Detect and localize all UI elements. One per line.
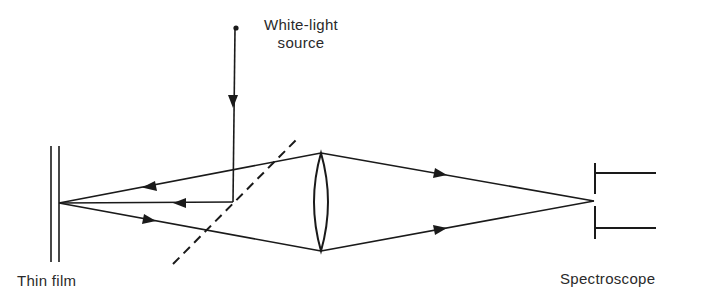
lower-ray-left (59, 203, 321, 251)
splitter-to-film-arrow-icon (173, 198, 186, 208)
thin-film-interference-diagram (0, 0, 726, 306)
source-dot (233, 25, 238, 30)
source-label-line1: White-light (253, 16, 349, 34)
beam-splitter (173, 137, 299, 264)
splitter-to-film-ray (59, 202, 233, 203)
source-ray (233, 29, 235, 202)
source-arrow-icon (228, 95, 238, 108)
lower-ray-left-arrow-icon (142, 214, 156, 224)
spectroscope-label: Spectroscope (560, 270, 655, 288)
lower-ray-right (321, 201, 594, 251)
thin-film-label: Thin film (17, 272, 76, 290)
lower-ray-right-arrow-icon (433, 225, 447, 235)
upper-ray-right-arrow-icon (433, 168, 447, 178)
source-label: White-light source (253, 16, 349, 52)
source-label-line2: source (253, 34, 349, 52)
upper-ray-right (321, 153, 594, 201)
lens (314, 153, 328, 251)
upper-ray-left (59, 153, 321, 203)
